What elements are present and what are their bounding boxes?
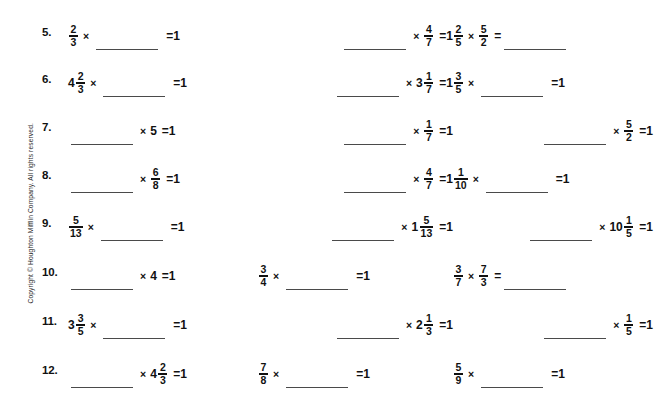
fraction: 513 [420, 215, 434, 238]
whole-number: 1 [558, 368, 565, 380]
equals-operator: = [556, 173, 563, 185]
copyright-strip: Copyright © Houghton Mifflin Company. Al… [0, 0, 22, 414]
problem-number: 8. [42, 169, 51, 181]
problem-number: 6. [42, 73, 51, 85]
fraction: 73 [479, 264, 488, 287]
multiplication-operator: × [613, 126, 619, 137]
answer-blank[interactable] [103, 83, 165, 97]
whole-number: 1 [363, 368, 370, 380]
multiplication-operator: × [468, 78, 474, 89]
mixed-number: 1513 [411, 215, 434, 238]
equals-operator: = [439, 173, 446, 185]
equation-expression: 513×=1 [68, 215, 185, 238]
equals-operator: = [356, 270, 363, 282]
answer-blank[interactable] [337, 325, 399, 339]
multiplication-operator: × [613, 320, 619, 331]
fraction-denominator: 2 [625, 132, 633, 143]
whole-number: 1 [646, 221, 653, 233]
problem-9c: ×1015=1 [453, 205, 653, 249]
multiplication-operator: × [468, 271, 474, 282]
whole-number: 1 [646, 125, 653, 137]
answer-blank[interactable] [544, 325, 606, 339]
equals-operator: = [639, 125, 646, 137]
problem-12b: 78×=1 [258, 352, 453, 396]
fraction: 59 [454, 362, 463, 385]
problem-row: 10.×4=134×=137×73= [22, 254, 655, 298]
answer-blank[interactable] [486, 179, 548, 193]
fraction-numerator: 3 [455, 71, 463, 82]
equation-expression: ×4=1 [68, 269, 176, 283]
problem-number: 9. [42, 217, 51, 229]
problem-row: 6.423×=1×317=135×=1 [22, 61, 655, 105]
multiplication-operator: × [273, 369, 279, 380]
answer-blank[interactable] [344, 36, 406, 50]
equals-operator: = [439, 221, 446, 233]
problem-5a: 23×=1 [68, 14, 258, 58]
fraction-denominator: 8 [152, 180, 160, 191]
equals-operator: = [639, 221, 646, 233]
problem-7c: ×52=1 [453, 109, 653, 153]
mixed-number: 335 [68, 313, 86, 336]
answer-blank[interactable] [344, 179, 406, 193]
whole-number: 1 [180, 319, 187, 331]
equals-operator: = [173, 319, 180, 331]
equals-operator: = [494, 270, 501, 282]
equals-operator: = [439, 125, 446, 137]
whole-number: 1 [446, 319, 453, 331]
mixed-number: 213 [416, 313, 434, 336]
answer-blank[interactable] [544, 131, 606, 145]
fraction-denominator: 13 [69, 228, 83, 239]
problem-number: 7. [42, 121, 51, 133]
multiplication-operator: × [401, 222, 407, 233]
answer-blank[interactable] [481, 374, 543, 388]
problem-9a: 513×=1 [68, 205, 258, 249]
equals-operator: = [551, 77, 558, 89]
answer-blank[interactable] [101, 227, 163, 241]
answer-blank[interactable] [504, 36, 566, 50]
whole-number: 1 [169, 125, 176, 137]
problem-5b: ×47=1 [258, 14, 453, 58]
answer-blank[interactable] [71, 374, 133, 388]
fraction-numerator: 3 [455, 264, 463, 275]
problem-10b: 34×=1 [258, 254, 453, 298]
problem-12c: 59×=1 [453, 352, 653, 396]
answer-blank[interactable] [344, 131, 406, 145]
fraction-numerator: 2 [455, 24, 463, 35]
whole-number: 1 [178, 221, 185, 233]
whole-number: 1 [446, 173, 453, 185]
answer-blank[interactable] [481, 83, 543, 97]
problem-row: 7.×5=1×17=1×52=1 [22, 109, 655, 153]
answer-blank[interactable] [286, 276, 348, 290]
fraction-denominator: 3 [77, 84, 85, 95]
answer-blank[interactable] [286, 374, 348, 388]
problem-row: 9.513×=1×1513=1×1015=1 [22, 205, 655, 249]
problem-row: 5.23×=1×47=125×52= [22, 14, 655, 58]
answer-blank[interactable] [332, 227, 394, 241]
answer-blank[interactable] [504, 276, 566, 290]
fraction-denominator: 5 [625, 326, 633, 337]
fraction: 37 [454, 264, 463, 287]
multiplication-operator: × [83, 31, 89, 42]
answer-blank[interactable] [96, 36, 158, 50]
answer-blank[interactable] [103, 325, 165, 339]
fraction-numerator: 1 [425, 313, 433, 324]
equals-operator: = [551, 368, 558, 380]
fraction-denominator: 2 [480, 37, 488, 48]
multiplication-operator: × [140, 369, 146, 380]
fraction: 25 [454, 24, 463, 47]
answer-blank[interactable] [337, 83, 399, 97]
fraction: 23 [158, 362, 167, 385]
whole-number: 5 [150, 125, 157, 137]
answer-blank[interactable] [71, 131, 133, 145]
answer-blank[interactable] [71, 276, 133, 290]
whole-number: 1 [446, 77, 453, 89]
answer-blank[interactable] [530, 227, 592, 241]
mixed-number: 423 [150, 362, 168, 385]
equation-expression: ×5=1 [68, 124, 176, 138]
fraction-denominator: 9 [455, 375, 463, 386]
fraction-numerator: 6 [152, 167, 160, 178]
worksheet-problem-grid: 5.23×=1×47=125×52=6.423×=1×317=135×=17.×… [22, 0, 655, 414]
answer-blank[interactable] [71, 179, 133, 193]
multiplication-operator: × [468, 369, 474, 380]
mixed-number-whole: 4 [150, 368, 157, 380]
